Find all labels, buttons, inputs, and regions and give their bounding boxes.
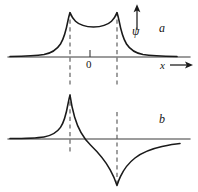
psi-curve [10,13,177,57]
panel-a-group [8,4,193,86]
dpsi-dx-curve [10,95,180,185]
origin-label: 0 [86,59,92,70]
x-axis-label: x [160,60,165,71]
psi-axis-label: ψ [132,25,139,37]
panel-b-group [8,94,190,188]
physics-figure: a b x ψ 0 [0,0,198,192]
figure-canvas [0,0,198,192]
panel-a-letter-label: a [159,22,165,34]
panel-b-letter-label: b [159,113,165,125]
